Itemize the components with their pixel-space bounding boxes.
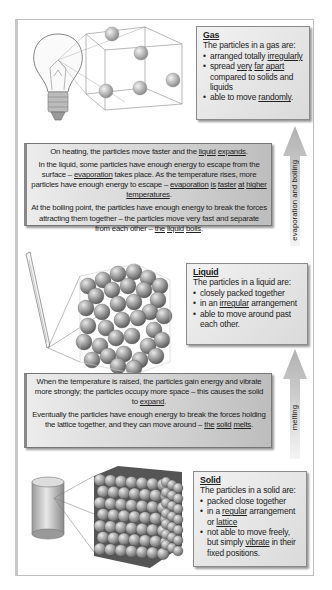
liquid-intro: The particles in a liquid are:	[193, 277, 302, 287]
faded-caption	[20, 580, 320, 588]
gas-particle-box	[55, 22, 190, 112]
evaporation-arrow-label: evaporation and boiling	[290, 160, 299, 241]
bullet-point: able to move around past each other.	[193, 309, 302, 330]
explanation-paragraph: On heating, the particles move faster an…	[31, 147, 267, 157]
bullet-point: able to move randomly.	[203, 92, 304, 102]
bullet-point: closely packed together	[193, 288, 302, 298]
liquid-particle-cube	[48, 256, 183, 376]
melting-explanation-box: When the temperature is raised, the part…	[24, 373, 272, 448]
solid-info-box: Solid The particles in a solid are: pack…	[193, 471, 307, 567]
explanation-paragraph: When the temperature is raised, the part…	[31, 377, 267, 407]
gas-intro: The particles in a gas are:	[203, 40, 304, 50]
solid-particle-lattice	[54, 464, 190, 572]
bullet-point: in an irregular arrangement	[193, 298, 302, 308]
liquid-info-box: Liquid The particles in a liquid are: cl…	[186, 263, 308, 345]
solid-intro: The particles in a solid are:	[200, 485, 301, 495]
explanation-paragraph: Eventually the particles have enough ene…	[31, 410, 267, 430]
bullet-point: arranged totally irregularly	[203, 51, 304, 61]
explanation-paragraph: In the liquid, some particles have enoug…	[31, 160, 267, 200]
bullet-point: packed close together	[200, 496, 301, 506]
solid-points: packed close togetherin a regular arrang…	[200, 496, 301, 558]
heating-explanation-box: On heating, the particles move faster an…	[24, 143, 272, 226]
melting-arrow	[283, 349, 307, 459]
gas-title: Gas	[203, 30, 304, 40]
bullet-point: spread very far apart compared to solids…	[203, 61, 304, 92]
thermometer-icon	[20, 250, 50, 350]
gas-points: arranged totally irregularlyspread very …	[203, 51, 304, 103]
bullet-point: in a regular arrangement or lattice	[200, 506, 301, 527]
solid-title: Solid	[200, 475, 301, 485]
liquid-points: closely packed togetherin an irregular a…	[193, 288, 302, 330]
gas-info-box: Gas The particles in a gas are: arranged…	[196, 26, 310, 120]
liquid-title: Liquid	[193, 267, 302, 277]
explanation-paragraph: At the boiling point, the particles have…	[31, 203, 267, 233]
bullet-point: not able to move freely, but simply vibr…	[200, 527, 301, 558]
melting-arrow-label: melting	[290, 405, 299, 430]
